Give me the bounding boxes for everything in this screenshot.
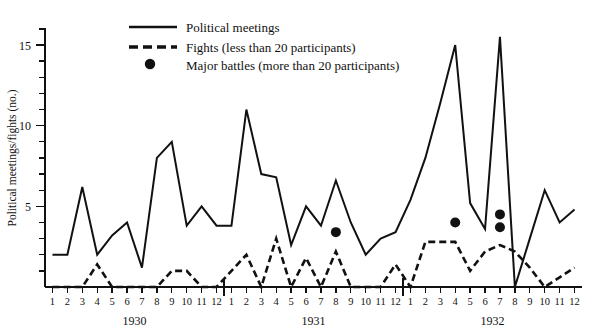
x-axis-month-label: 10 xyxy=(360,296,371,307)
x-axis-month-label: 2 xyxy=(423,296,428,307)
x-axis-month-label: 2 xyxy=(65,296,70,307)
x-axis-month-label: 3 xyxy=(259,296,264,307)
y-axis-tick-label: 5 xyxy=(25,200,31,214)
chart-figure: 5101512345678910111212345678910111212345… xyxy=(0,0,595,332)
y-axis-label: Political meetings/fights (no.) xyxy=(6,89,19,226)
x-axis-month-label: 12 xyxy=(390,296,401,307)
x-axis-month-label: 8 xyxy=(333,296,338,307)
x-axis-month-label: 4 xyxy=(274,296,280,307)
x-axis-month-label: 3 xyxy=(438,296,443,307)
x-axis-month-label: 6 xyxy=(124,296,129,307)
x-axis-month-label: 1 xyxy=(408,296,413,307)
x-axis-month-label: 11 xyxy=(376,296,386,307)
x-axis-month-label: 11 xyxy=(197,296,207,307)
x-axis-month-label: 1 xyxy=(50,296,55,307)
x-axis-month-label: 9 xyxy=(348,296,353,307)
x-axis-month-label: 4 xyxy=(453,296,459,307)
legend-label-major-battles: Major battles (more than 20 participants… xyxy=(186,58,399,73)
x-axis-month-label: 5 xyxy=(289,296,294,307)
major-battle-dot xyxy=(450,217,460,227)
x-axis-year-label: 1932 xyxy=(481,314,505,328)
x-axis-month-label: 12 xyxy=(211,296,222,307)
x-axis-month-label: 8 xyxy=(154,296,159,307)
x-axis-month-label: 1 xyxy=(229,296,234,307)
x-axis-month-label: 4 xyxy=(95,296,101,307)
x-axis-month-label: 2 xyxy=(244,296,249,307)
legend-label-political-meetings: Political meetings xyxy=(186,20,280,35)
line-chart-svg: 5101512345678910111212345678910111212345… xyxy=(0,0,595,332)
x-axis-month-label: 6 xyxy=(482,296,487,307)
major-battle-dot xyxy=(495,209,505,219)
x-axis-month-label: 11 xyxy=(555,296,565,307)
major-battle-dot xyxy=(331,227,341,237)
x-axis-month-label: 8 xyxy=(512,296,517,307)
x-axis-month-label: 10 xyxy=(181,296,192,307)
x-axis-month-label: 6 xyxy=(303,296,308,307)
legend-filled-circle-icon xyxy=(145,59,155,69)
x-axis-month-label: 7 xyxy=(318,296,323,307)
x-axis-month-label: 3 xyxy=(80,296,85,307)
y-axis-tick-label: 15 xyxy=(19,39,31,53)
x-axis-month-label: 5 xyxy=(110,296,115,307)
y-axis-tick-label: 10 xyxy=(19,119,31,133)
x-axis-year-label: 1931 xyxy=(302,314,326,328)
x-axis-month-label: 7 xyxy=(497,296,502,307)
x-axis-month-label: 10 xyxy=(539,296,550,307)
x-axis-month-label: 9 xyxy=(169,296,174,307)
x-axis-month-label: 9 xyxy=(527,296,532,307)
major-battle-dot xyxy=(495,222,505,232)
legend-label-fights: Fights (less than 20 participants) xyxy=(186,40,356,55)
x-axis-month-label: 12 xyxy=(569,296,580,307)
x-axis-month-label: 7 xyxy=(139,296,144,307)
x-axis-month-label: 5 xyxy=(468,296,473,307)
x-axis-year-label: 1930 xyxy=(123,314,147,328)
